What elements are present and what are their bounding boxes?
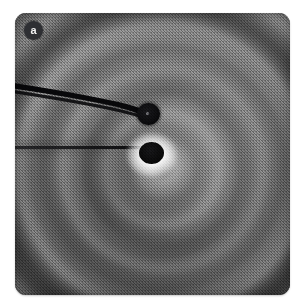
micrograph-panel[interactable]: a xyxy=(15,13,290,295)
image-grain xyxy=(15,13,290,295)
panel-label-badge: a xyxy=(24,21,43,40)
figure-root: a xyxy=(0,0,301,308)
